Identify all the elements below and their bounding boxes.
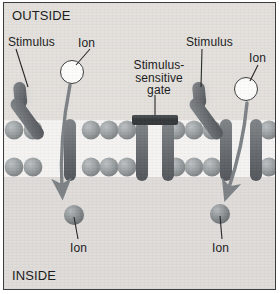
ion-outside-left [61, 61, 84, 84]
label-stimulus-right: Stimulus [186, 35, 233, 49]
ion-inside-left [64, 205, 84, 225]
label-ion-inside-left: Ion [70, 241, 87, 255]
region-label-inside: INSIDE [12, 268, 56, 283]
figure-frame: OUTSIDE INSIDE Stimulus Ion Stimulus Ion… [3, 2, 276, 290]
leader-ion-outside-left [76, 49, 90, 65]
region-label-outside: OUTSIDE [12, 8, 70, 23]
label-ion-outside-left: Ion [78, 36, 95, 50]
leader-stimulus-right [201, 49, 202, 87]
figure-root: OUTSIDE INSIDE Stimulus Ion Stimulus Ion… [0, 0, 280, 294]
leader-ion-outside-right [250, 65, 258, 81]
leader-stimulus-left [16, 49, 28, 87]
label-stimulus-left: Stimulus [8, 35, 55, 49]
gate-label-line-3: gate [123, 84, 195, 97]
ion-outside-right [235, 78, 258, 101]
stimulus-sensitive-gate [132, 115, 178, 125]
label-stimulus-sensitive-gate: Stimulus- sensitive gate [123, 59, 195, 97]
gate-label-line-1: Stimulus- [123, 59, 195, 72]
label-ion-inside-right: Ion [212, 241, 229, 255]
label-ion-outside-right: Ion [249, 51, 266, 65]
